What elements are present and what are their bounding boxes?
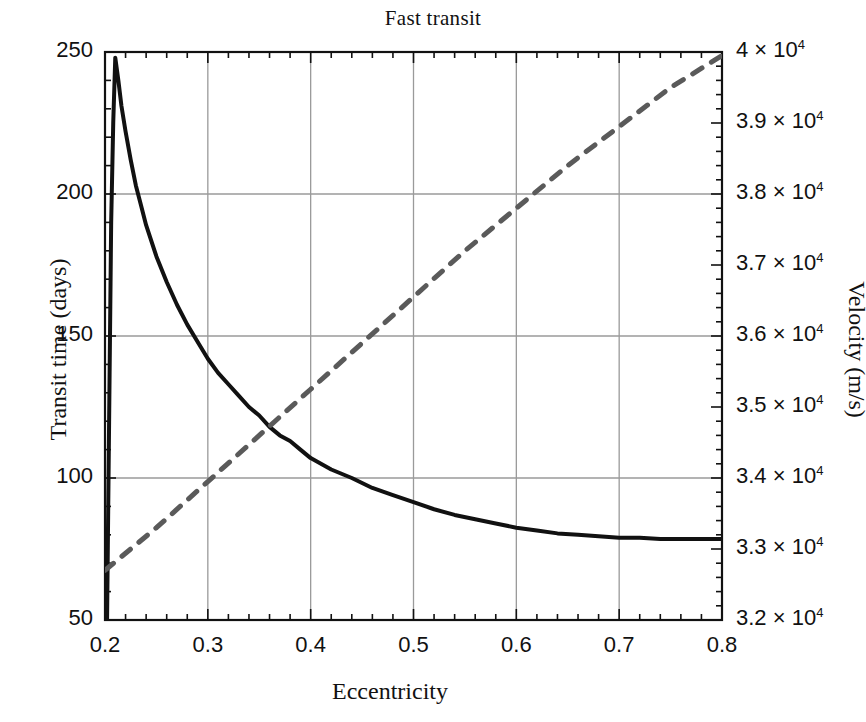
y-right-tick-label: 3.8 × 104: [736, 179, 823, 205]
x-tick-label: 0.6: [494, 632, 538, 658]
y-left-tick-label: 200: [0, 179, 93, 205]
grid-lines: [105, 52, 722, 620]
y-right-tick-label: 3.3 × 104: [736, 534, 823, 560]
y-left-tick-label: 250: [0, 37, 93, 63]
y-left-tick-label: 100: [0, 463, 93, 489]
y-left-tick-label: 150: [0, 321, 93, 347]
series-line-transit-time: [107, 58, 722, 620]
y-right-tick-label: 3.4 × 104: [736, 463, 823, 489]
y-right-tick-label: 3.5 × 104: [736, 392, 823, 418]
y-left-tick-label: 50: [0, 605, 93, 631]
y-right-tick-label: 3.2 × 104: [736, 605, 823, 631]
x-tick-label: 0.3: [186, 632, 230, 658]
x-tick-label: 0.2: [83, 632, 127, 658]
x-tick-label: 0.5: [392, 632, 436, 658]
y-right-tick-label: 4 × 104: [736, 37, 805, 63]
y-right-tick-label: 3.9 × 104: [736, 108, 823, 134]
y-right-tick-label: 3.6 × 104: [736, 321, 823, 347]
chart-figure: Fast transit Transit time (days) Velocit…: [0, 0, 866, 722]
y-right-tick-label: 3.7 × 104: [736, 250, 823, 276]
x-tick-label: 0.7: [597, 632, 641, 658]
x-tick-label: 0.8: [700, 632, 744, 658]
x-tick-label: 0.4: [289, 632, 333, 658]
